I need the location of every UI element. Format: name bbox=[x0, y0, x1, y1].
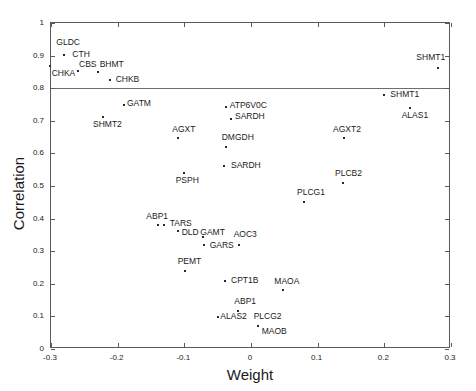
x-axis-tick bbox=[118, 343, 119, 347]
data-point bbox=[109, 79, 111, 81]
point-label: ABP1 bbox=[146, 212, 168, 221]
x-axis-tick-top bbox=[451, 23, 452, 27]
data-point bbox=[224, 280, 226, 282]
point-label: GATM bbox=[127, 99, 151, 108]
x-axis-tick-label: 0.2 bbox=[378, 353, 389, 362]
point-label: CTH bbox=[72, 50, 89, 59]
x-axis-tick-top bbox=[318, 23, 319, 27]
data-point bbox=[157, 224, 159, 226]
y-axis-tick bbox=[51, 349, 55, 350]
y-axis-tick bbox=[51, 23, 55, 24]
point-label: ABP1 bbox=[234, 297, 256, 306]
point-label: GARS bbox=[210, 241, 234, 250]
y-axis-tick bbox=[51, 186, 55, 187]
x-axis-tick-label: 0.3 bbox=[444, 353, 455, 362]
point-label: SARDH bbox=[235, 112, 265, 121]
x-axis-tick bbox=[318, 343, 319, 347]
y-axis-tick-right bbox=[445, 251, 449, 252]
y-axis-tick bbox=[51, 153, 55, 154]
y-axis-tick bbox=[51, 88, 55, 89]
point-label: CHKA bbox=[52, 69, 76, 78]
data-point bbox=[63, 54, 65, 56]
plot-area: GLDCCTHCHKACBSBHMTCHKBSHMT1SHMT1ALAS1GAT… bbox=[50, 22, 450, 348]
y-axis-tick-right bbox=[445, 349, 449, 350]
data-point bbox=[303, 201, 305, 203]
data-point bbox=[225, 146, 227, 148]
y-axis-tick-label: 0 bbox=[14, 344, 44, 353]
point-label: DMGDH bbox=[222, 133, 254, 142]
point-label: CHKB bbox=[116, 75, 140, 84]
data-point bbox=[102, 116, 104, 118]
y-axis-tick-right bbox=[445, 284, 449, 285]
x-axis-tick-label: 0.1 bbox=[311, 353, 322, 362]
y-axis-tick bbox=[51, 219, 55, 220]
point-label: AGXT bbox=[172, 125, 195, 134]
point-label: GAMT bbox=[200, 228, 225, 237]
point-label: ATP6V0C bbox=[230, 101, 267, 110]
point-label: PEMT bbox=[178, 257, 202, 266]
x-axis-tick-top bbox=[384, 23, 385, 27]
y-axis-tick-right bbox=[445, 88, 449, 89]
point-label: MAOB bbox=[262, 327, 287, 336]
y-axis-tick bbox=[51, 316, 55, 317]
point-label: AGXT2 bbox=[333, 125, 361, 134]
y-axis-label: Correlation bbox=[10, 114, 27, 274]
y-axis-tick bbox=[51, 121, 55, 122]
data-point bbox=[97, 71, 99, 73]
data-point bbox=[383, 94, 385, 96]
x-axis-tick bbox=[184, 343, 185, 347]
y-axis-tick-label: 0.8 bbox=[14, 83, 44, 92]
x-axis-tick-label: -0.3 bbox=[43, 353, 57, 362]
y-axis-tick bbox=[51, 251, 55, 252]
x-axis-label: Weight bbox=[50, 366, 450, 383]
point-label: CBS bbox=[79, 60, 96, 69]
data-point bbox=[177, 230, 179, 232]
point-label: PLCG2 bbox=[254, 312, 282, 321]
point-label: CPT1B bbox=[231, 276, 258, 285]
point-label: SHMT1 bbox=[390, 90, 419, 99]
data-point bbox=[225, 106, 227, 108]
point-label: SHMT2 bbox=[93, 120, 122, 129]
data-point bbox=[343, 137, 345, 139]
point-label: MAOA bbox=[274, 277, 299, 286]
y-axis-tick-right bbox=[445, 219, 449, 220]
point-label: ALAS2 bbox=[220, 312, 246, 321]
point-label: ALAS1 bbox=[402, 111, 428, 120]
data-point bbox=[437, 67, 439, 69]
y-axis-tick-right bbox=[445, 153, 449, 154]
point-label: PLCB2 bbox=[335, 169, 362, 178]
point-label: BHMT bbox=[100, 60, 124, 69]
x-axis-tick bbox=[251, 343, 252, 347]
data-point bbox=[184, 270, 186, 272]
data-point bbox=[203, 244, 205, 246]
x-axis-tick-top bbox=[118, 23, 119, 27]
point-label: PSPH bbox=[176, 176, 199, 185]
y-axis-tick bbox=[51, 284, 55, 285]
x-axis-tick-label: -0.1 bbox=[176, 353, 190, 362]
y-axis-tick-label: 0.9 bbox=[14, 50, 44, 59]
point-label: AOC3 bbox=[234, 230, 257, 239]
data-point bbox=[177, 137, 179, 139]
y-axis-tick-label: 0.1 bbox=[14, 311, 44, 320]
data-point bbox=[257, 325, 259, 327]
y-axis-tick-right bbox=[445, 121, 449, 122]
data-point bbox=[123, 104, 125, 106]
x-axis-tick-label: 0 bbox=[248, 353, 252, 362]
x-axis-tick-top bbox=[184, 23, 185, 27]
point-label: SHMT1 bbox=[416, 53, 445, 62]
data-point bbox=[238, 244, 240, 246]
data-point bbox=[230, 118, 232, 120]
point-label: PLCG1 bbox=[297, 188, 325, 197]
y-axis-tick-right bbox=[445, 23, 449, 24]
x-axis-tick bbox=[451, 343, 452, 347]
y-axis-tick-label: 1 bbox=[14, 18, 44, 27]
data-point bbox=[77, 70, 79, 72]
y-axis-tick-right bbox=[445, 316, 449, 317]
y-axis-tick bbox=[51, 56, 55, 57]
data-point bbox=[342, 182, 344, 184]
y-axis-tick-label: 0.2 bbox=[14, 278, 44, 287]
data-point bbox=[163, 224, 165, 226]
data-point bbox=[49, 65, 51, 67]
data-point bbox=[223, 165, 225, 167]
x-axis-tick-top bbox=[251, 23, 252, 27]
